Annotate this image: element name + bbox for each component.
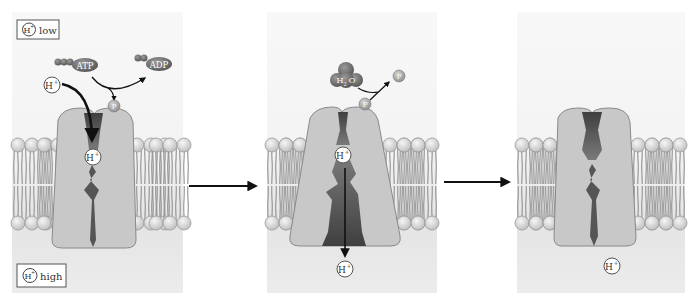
svg-text:H: H — [86, 153, 94, 163]
phosphate-released: P — [393, 70, 405, 82]
svg-text:ATP: ATP — [75, 61, 93, 71]
proton-free: H + — [604, 258, 620, 274]
svg-text:+: + — [613, 259, 618, 266]
svg-text:ADP: ADP — [149, 60, 169, 70]
proton-bound: H + — [335, 147, 351, 163]
lipid-bilayer-right — [130, 138, 191, 230]
svg-text:+: + — [31, 269, 35, 275]
svg-text:H: H — [45, 81, 53, 91]
svg-text:H: H — [338, 265, 346, 275]
svg-text:+: + — [94, 150, 99, 157]
svg-text:H: H — [605, 262, 613, 272]
proton-released: H + — [337, 261, 353, 277]
svg-text:P: P — [397, 73, 402, 81]
phosphate-bound: P — [108, 100, 120, 112]
svg-text:H: H — [336, 151, 344, 161]
lipid-bilayer-right — [631, 138, 687, 230]
svg-text:low: low — [39, 25, 57, 36]
svg-text:O: O — [349, 76, 356, 85]
svg-text:P: P — [363, 101, 368, 109]
svg-text:+: + — [30, 23, 34, 29]
proton-bound: H + — [85, 149, 101, 165]
diagram-stage: H + H + low H + high ATP — [0, 0, 696, 305]
svg-text:high: high — [40, 271, 63, 282]
phosphate-bound: P — [359, 98, 371, 110]
svg-text:2: 2 — [343, 81, 346, 87]
proton-entering: H + — [44, 77, 60, 93]
pump-protein — [52, 108, 136, 248]
proton-high-label-box: H + high — [17, 264, 66, 287]
svg-text:+: + — [53, 78, 58, 85]
pump-protein — [554, 108, 636, 246]
panel-1: H + H + low H + high ATP — [11, 12, 191, 293]
panel-2: H + H + H 2 O P P — [265, 12, 439, 293]
svg-text:P: P — [112, 103, 117, 111]
svg-text:+: + — [346, 262, 351, 269]
svg-text:+: + — [344, 148, 349, 155]
channel-open-cytoplasmic — [582, 112, 602, 160]
proton-pump-diagram: H + H + low H + high ATP — [0, 0, 696, 305]
proton-low-label-box: H + low — [17, 20, 59, 39]
panel-3: H + — [515, 12, 687, 293]
